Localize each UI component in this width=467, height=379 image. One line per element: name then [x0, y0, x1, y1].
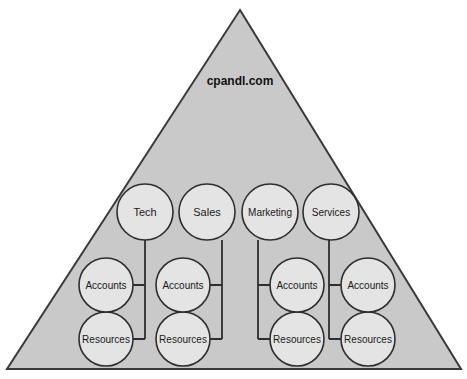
node-accounts-3-label: Accounts	[276, 280, 317, 291]
node-ou-tech-label: Tech	[133, 206, 156, 218]
domain-title: cpandl.com	[207, 74, 274, 88]
node-resources-1-label: Resources	[82, 334, 130, 345]
node-ou-marketing-label: Marketing	[248, 207, 292, 218]
node-ou-sales-label: Sales	[193, 206, 221, 218]
diagram-canvas: cpandl.com Tech Sales Marketing Services…	[0, 0, 467, 379]
domain-hierarchy-diagram: cpandl.com Tech Sales Marketing Services…	[0, 0, 467, 379]
node-ou-services-label: Services	[312, 207, 350, 218]
pyramid-shape	[7, 10, 461, 369]
node-resources-4-label: Resources	[344, 334, 392, 345]
node-resources-2-label: Resources	[159, 334, 207, 345]
node-accounts-1-label: Accounts	[85, 280, 126, 291]
node-resources-3-label: Resources	[273, 334, 321, 345]
node-accounts-4-label: Accounts	[347, 280, 388, 291]
node-accounts-2-label: Accounts	[162, 280, 203, 291]
